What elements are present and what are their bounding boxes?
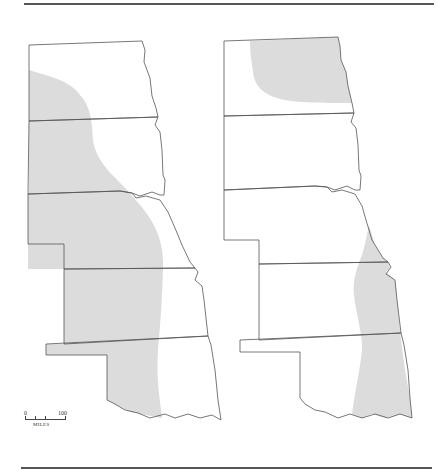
scale-tick [25, 416, 26, 420]
scale-tick [45, 416, 46, 420]
scale-tick [65, 416, 66, 420]
scale-tick [35, 416, 36, 420]
scale-units-label: MILES [33, 422, 50, 427]
scale-bar: 0 100 MILES [24, 410, 68, 434]
right-map [224, 37, 412, 418]
left-map [28, 41, 221, 420]
bottom-rule [21, 467, 432, 469]
right-south-dakota [224, 113, 361, 190]
right-map-shaded-region-east [352, 225, 412, 418]
right-map-shaded-region-north [250, 37, 352, 103]
maps-canvas [0, 0, 448, 472]
